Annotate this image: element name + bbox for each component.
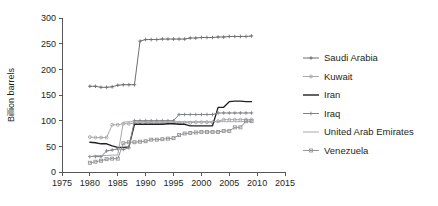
- x-tick-label: 1980: [80, 178, 100, 188]
- oil-reserves-line-chart: 050100150200250300 197519801985199019952…: [0, 0, 438, 206]
- legend-item-saudi-arabia[interactable]: Saudi Arabia: [303, 52, 379, 63]
- chart-canvas: 050100150200250300 197519801985199019952…: [0, 0, 438, 206]
- series-line: [90, 121, 252, 163]
- x-tick-label: 1975: [52, 178, 72, 188]
- chart-legend: Saudi ArabiaKuwaitIranIraqUnited Arab Em…: [303, 52, 414, 155]
- y-axis-label: Billion barrels: [6, 67, 16, 122]
- series-line: [90, 101, 252, 147]
- y-tick-label: 50: [46, 142, 56, 152]
- y-tick-label: 100: [41, 116, 56, 126]
- series-line: [90, 120, 252, 138]
- series-saudi-arabia: [88, 34, 253, 89]
- x-tick-label: 1990: [136, 178, 156, 188]
- y-tick-label: 150: [41, 90, 56, 100]
- x-tick-label: 2015: [275, 178, 295, 188]
- legend-label: Iran: [324, 89, 340, 100]
- legend-item-iran[interactable]: Iran: [303, 89, 340, 100]
- legend-item-united-arab-emirates[interactable]: United Arab Emirates: [303, 126, 414, 137]
- series-united-arab-emirates: [90, 122, 252, 157]
- legend-label: Saudi Arabia: [324, 52, 379, 63]
- x-axis: 197519801985199019952000200520102015: [52, 172, 295, 188]
- legend-label: Iraq: [324, 108, 340, 119]
- legend-item-venezuela[interactable]: Venezuela: [303, 145, 369, 156]
- x-tick-label: 1985: [108, 178, 128, 188]
- legend-label: Kuwait: [324, 71, 353, 82]
- x-tick-label: 1995: [163, 178, 183, 188]
- x-tick-label: 2005: [219, 178, 239, 188]
- legend-label: United Arab Emirates: [324, 126, 414, 137]
- series-layer: [88, 34, 253, 164]
- legend-item-iraq[interactable]: Iraq: [303, 108, 340, 119]
- x-tick-label: 2000: [191, 178, 211, 188]
- legend-item-kuwait[interactable]: Kuwait: [303, 71, 353, 82]
- legend-label: Venezuela: [324, 145, 369, 156]
- series-line: [90, 36, 252, 87]
- y-axis-title: Billion barrels: [6, 67, 16, 122]
- y-tick-label: 300: [41, 13, 56, 23]
- x-tick-label: 2010: [247, 178, 267, 188]
- y-tick-label: 250: [41, 39, 56, 49]
- y-tick-label: 0: [51, 167, 56, 177]
- y-tick-label: 200: [41, 65, 56, 75]
- y-axis: 050100150200250300: [41, 13, 62, 177]
- series-line: [90, 122, 252, 157]
- series-iran: [90, 101, 252, 147]
